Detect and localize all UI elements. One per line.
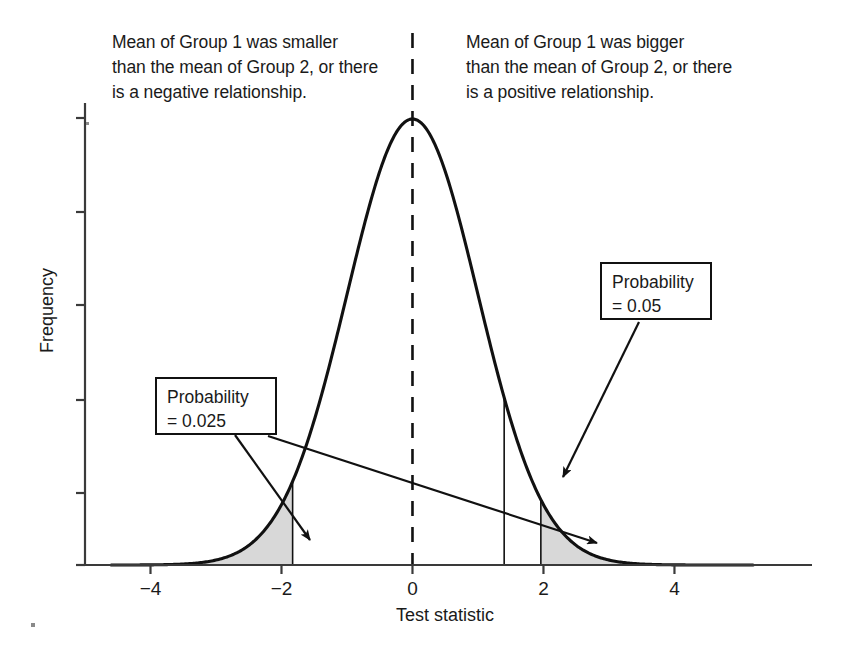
left-tail-shade — [111, 481, 292, 565]
annotation-negative-relationship: Mean of Group 1 was smaller than the mea… — [112, 30, 378, 105]
x-axis-tick-label: 2 — [520, 578, 566, 600]
statistics-figure: Mean of Group 1 was smaller than the mea… — [0, 0, 854, 654]
y-axis-ticks — [76, 118, 85, 565]
leader-line-005-to-right-tail — [563, 322, 639, 477]
x-axis-tick-label: −4 — [127, 578, 173, 600]
x-axis-tick-label: 0 — [389, 578, 435, 600]
probability-005-box: Probability = 0.05 — [600, 262, 712, 320]
annotation-positive-relationship: Mean of Group 1 was bigger than the mean… — [466, 30, 732, 105]
normal-curve — [111, 119, 753, 565]
right-tail-shade — [541, 500, 753, 565]
leader-line-0025-to-right-tail — [268, 436, 597, 543]
x-axis-tick-label: −2 — [258, 578, 304, 600]
x-axis-tick-label: 4 — [651, 578, 697, 600]
scan-speck — [86, 122, 89, 125]
shaded-tails — [111, 481, 753, 565]
y-axis-title: Frequency — [37, 251, 58, 371]
callout-leader-lines — [235, 322, 639, 543]
x-axis-title: Test statistic — [325, 605, 565, 626]
scan-speck — [31, 623, 35, 627]
critical-boundary-lines — [293, 398, 541, 565]
x-axis-ticks — [150, 565, 674, 574]
probability-0025-box: Probability = 0.025 — [155, 377, 277, 435]
